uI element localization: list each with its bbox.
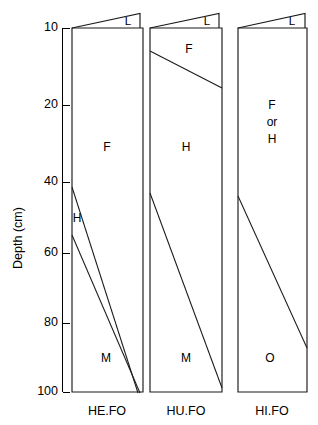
horizon-label-col2-h: H — [182, 140, 191, 154]
tick-label-60: 60 — [44, 245, 58, 259]
column-outline-col1 — [72, 28, 143, 392]
horizon-label-col3-h: H — [268, 132, 277, 146]
horizon-label-col1-m: M — [101, 351, 111, 365]
horizon-boundary-col1-h-m — [72, 235, 140, 393]
horizon-label-col3-o: O — [265, 351, 274, 365]
column-name-hi-fo: HI.FO — [255, 404, 289, 418]
tick-label-80: 80 — [44, 315, 58, 329]
horizon-label-col3-litter: L — [289, 15, 296, 27]
tick-label-100: 100 — [37, 384, 58, 398]
tick-label-10: 10 — [44, 20, 58, 34]
tick-label-20: 20 — [44, 97, 58, 111]
profile-column-he-fo: L F H M HE.FO — [72, 14, 143, 419]
profile-column-hu-fo: L F H M HU.FO — [150, 14, 222, 419]
column-name-hu-fo: HU.FO — [167, 404, 206, 418]
depth-axis: 10 20 40 60 80 100 Depth (cm) — [11, 20, 70, 398]
horizon-label-col2-litter: L — [204, 15, 211, 27]
tick-label-40: 40 — [44, 174, 58, 188]
soil-profile-figure: 10 20 40 60 80 100 Depth (cm) L F H M HE… — [0, 0, 318, 425]
horizon-boundary-col2-f-h — [150, 51, 222, 88]
column-name-he-fo: HE.FO — [88, 404, 126, 418]
horizon-label-col1-h: H — [73, 211, 82, 225]
horizon-label-col3-f: F — [268, 98, 275, 112]
horizon-label-col2-f: F — [185, 42, 192, 56]
axis-title-depth: Depth (cm) — [11, 207, 25, 269]
horizon-label-col1-f: F — [103, 140, 110, 154]
horizon-label-col2-m: M — [181, 351, 191, 365]
horizon-boundary-col3-fh-o — [238, 196, 307, 348]
horizon-label-col3-or: or — [267, 115, 278, 129]
horizon-label-col1-litter: L — [125, 15, 132, 27]
column-outline-col3 — [238, 28, 307, 392]
profile-diagram-svg: 10 20 40 60 80 100 Depth (cm) L F H M HE… — [0, 0, 318, 425]
profile-column-hi-fo: L F or H O HI.FO — [238, 14, 307, 419]
